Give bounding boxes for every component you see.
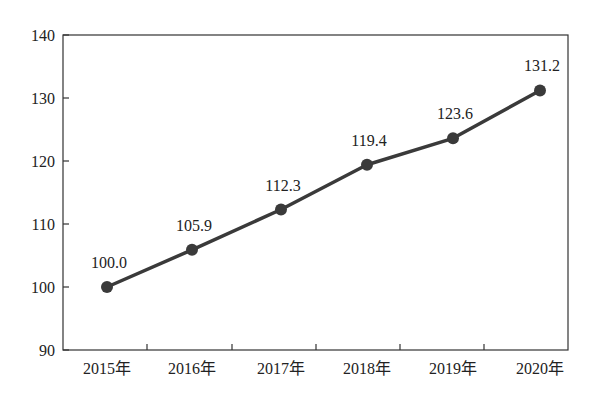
y-tick-label: 120: [31, 153, 55, 170]
x-tick-label: 2017年: [257, 360, 305, 377]
x-axis: 2015年2016年2017年2018年2019年2020年: [83, 344, 564, 377]
y-tick-label: 90: [39, 342, 55, 359]
data-label: 119.4: [351, 132, 386, 149]
y-tick-label: 100: [31, 279, 55, 296]
data-label: 100.0: [91, 254, 127, 271]
data-labels: 100.0105.9112.3119.4123.6131.2: [91, 57, 560, 271]
data-point: [361, 159, 373, 171]
data-label: 105.9: [176, 217, 212, 234]
data-label: 112.3: [265, 177, 300, 194]
y-tick-label: 130: [31, 90, 55, 107]
x-tick-label: 2020年: [516, 360, 564, 377]
data-point: [275, 204, 287, 216]
series-line: [107, 90, 540, 287]
y-tick-label: 140: [31, 27, 55, 44]
data-label: 123.6: [437, 105, 473, 122]
data-point: [447, 132, 459, 144]
x-tick-label: 2016年: [168, 360, 216, 377]
x-tick-label: 2015年: [83, 360, 131, 377]
data-label: 131.2: [524, 57, 560, 74]
y-tick-label: 110: [32, 216, 55, 233]
data-point: [534, 84, 546, 96]
x-tick-label: 2019年: [429, 360, 477, 377]
data-point: [101, 281, 113, 293]
x-tick-label: 2018年: [343, 360, 391, 377]
data-point: [186, 244, 198, 256]
line-chart: 90100110120130140 2015年2016年2017年2018年20…: [0, 0, 606, 403]
